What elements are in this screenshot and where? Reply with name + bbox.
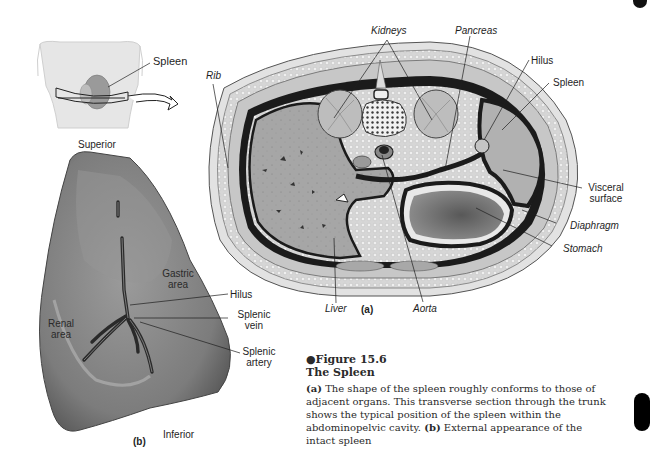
splenic-vein-label: Splenic vein: [234, 309, 274, 331]
diaphragm-label: Diaphragm: [570, 220, 619, 231]
aorta-label: Aorta: [413, 303, 437, 314]
page-tab-marker: [634, 393, 650, 431]
gastric-area-label: Gastric area: [156, 268, 200, 290]
hilus-label-b: Hilus: [230, 289, 252, 300]
figure-caption: ●Figure 15.6 The Spleen (a) The shape of…: [306, 353, 606, 447]
kidneys-label: Kidneys: [371, 25, 407, 36]
splenic-vein-line1: Splenic: [234, 309, 274, 320]
visceral-surface-line2: surface: [581, 193, 631, 204]
renal-area-label: Renal area: [43, 318, 79, 340]
splenic-vein-line2: vein: [234, 320, 274, 331]
transverse-section-illustration: [209, 42, 578, 296]
figure-number: ●Figure 15.6: [306, 353, 606, 366]
splenic-artery-line1: Splenic: [239, 346, 279, 357]
spleen-label-a: Spleen: [553, 77, 584, 88]
rib-label: Rib: [206, 70, 221, 81]
pancreas-label: Pancreas: [455, 25, 497, 36]
renal-area-line1: Renal: [43, 318, 79, 329]
gastric-area-line2: area: [156, 279, 200, 290]
stomach-label: Stomach: [563, 243, 602, 254]
hilus-label-a: Hilus: [531, 55, 553, 66]
renal-area-line2: area: [43, 329, 79, 340]
orientation-superior-label: Superior: [78, 139, 116, 150]
spleen-external-illustration: [40, 152, 231, 431]
liver-label: Liver: [325, 303, 347, 314]
panel-b-label: (b): [133, 436, 146, 447]
splenic-artery-label: Splenic artery: [239, 346, 279, 368]
splenic-artery-line2: artery: [239, 357, 279, 368]
orientation-inferior-label: Inferior: [163, 429, 194, 440]
visceral-surface-label: Visceral surface: [581, 182, 631, 204]
caption-part-b-label: (b): [424, 422, 440, 433]
caption-part-a-label: (a): [306, 383, 322, 394]
visceral-surface-line1: Visceral: [581, 182, 631, 193]
caption-body: (a) The shape of the spleen roughly conf…: [306, 382, 606, 447]
inset-spleen-label: Spleen: [153, 56, 187, 67]
corner-marker: [633, 0, 647, 8]
panel-a-label: (a): [361, 304, 373, 315]
gastric-area-line1: Gastric: [156, 268, 200, 279]
figure-title: The Spleen: [306, 366, 606, 379]
